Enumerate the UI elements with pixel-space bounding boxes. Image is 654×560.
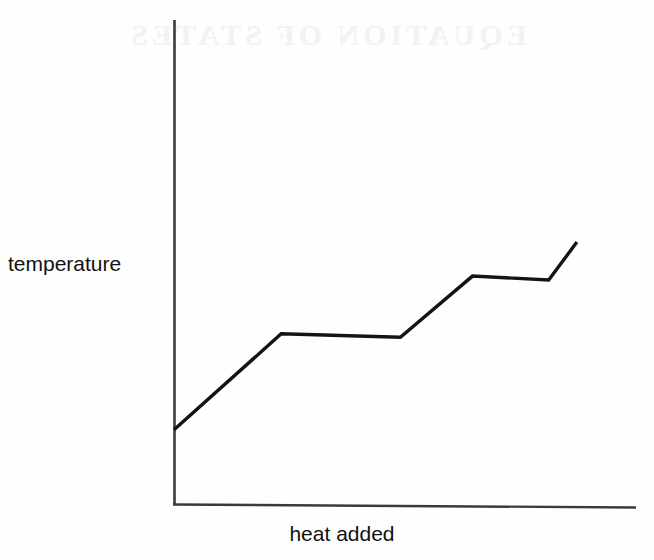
heating-curve-line (174, 242, 577, 430)
plot-canvas (0, 0, 654, 560)
x-axis-line (173, 505, 636, 508)
y-axis-label: temperature (8, 252, 121, 276)
heating-curve-figure: EQUATION OF STATES temperature heat adde… (0, 0, 654, 560)
x-axis-label: heat added (0, 522, 654, 546)
